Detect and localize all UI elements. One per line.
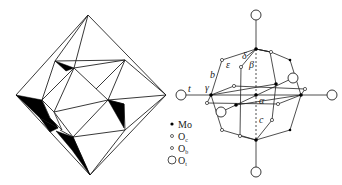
svg-text:Ob: Ob: [178, 143, 188, 155]
ot-left: [176, 90, 186, 100]
legend: Mo Oc Ob Ot: [168, 119, 192, 167]
label-delta: δ: [242, 50, 247, 61]
ot-circle-icon: [168, 156, 176, 164]
label-epsilon: ε: [226, 59, 230, 70]
oc-dot-icon: [171, 135, 174, 138]
svg-text:Oc: Oc: [178, 131, 188, 143]
ot-upper-right: [288, 73, 298, 83]
legend-item-oc: Oc: [171, 131, 189, 143]
figure-canvas: t γ b ε δ β α c Mo Oc Ob Ot: [0, 0, 342, 185]
legend-item-ot: Ot: [168, 155, 187, 167]
svg-text:Ot: Ot: [178, 155, 187, 167]
ob-dot-icon: [171, 147, 174, 150]
mo-dot-icon: [170, 122, 173, 125]
ot-top: [251, 10, 261, 20]
label-t: t: [188, 83, 191, 94]
polyhedron-model: [16, 15, 166, 175]
label-b: b: [210, 69, 215, 80]
svg-text:Mo: Mo: [178, 119, 192, 130]
ot-bottom: [251, 167, 261, 177]
label-beta: β: [248, 59, 254, 70]
label-gamma: γ: [205, 82, 210, 93]
ot-lower-left: [216, 107, 226, 117]
legend-item-mo: Mo: [170, 119, 192, 130]
legend-item-ob: Ob: [171, 143, 189, 155]
label-c: c: [259, 114, 264, 125]
ot-right: [327, 90, 337, 100]
shaded-faces: [16, 61, 124, 175]
label-alpha: α: [259, 95, 265, 106]
